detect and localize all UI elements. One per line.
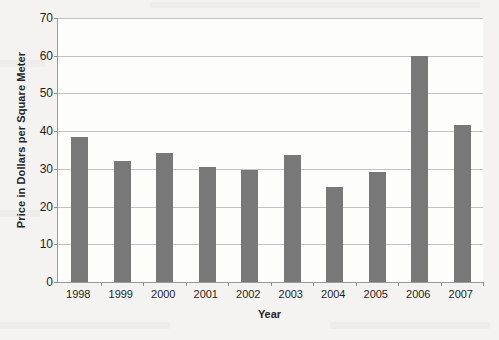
x-tickmark (186, 282, 187, 286)
y-tickmark (54, 18, 58, 19)
x-tickmark (143, 282, 144, 286)
gridline (58, 18, 483, 19)
bar-1999 (114, 161, 131, 282)
bar-chart-figure: Price in Dollars per Square Meter 70 60 … (0, 0, 499, 340)
scan-artifact (330, 322, 490, 329)
y-tickmark (54, 93, 58, 94)
x-tickmark (398, 282, 399, 286)
plot-area (57, 18, 483, 283)
y-tick-label: 0 (20, 275, 53, 289)
x-tick-label: 2004 (321, 288, 345, 300)
x-tickmark (101, 282, 102, 286)
bar-1998 (71, 137, 88, 282)
x-tick-label: 2007 (449, 288, 473, 300)
y-tick-label: 50 (20, 86, 53, 100)
y-tickmark (54, 282, 58, 283)
y-tickmark (54, 207, 58, 208)
y-tick-label: 10 (20, 237, 53, 251)
x-tickmark (271, 282, 272, 286)
x-tickmark (228, 282, 229, 286)
bar-2002 (241, 170, 258, 282)
x-tick-label: 2002 (236, 288, 260, 300)
bar-2007 (454, 125, 471, 282)
scan-artifact (150, 2, 480, 8)
y-tick-label: 60 (20, 49, 53, 63)
x-axis-title: Year (57, 308, 482, 320)
bar-2005 (369, 172, 386, 282)
x-tick-label: 2001 (194, 288, 218, 300)
y-tick-label: 40 (20, 124, 53, 138)
x-tick-label: 2000 (151, 288, 175, 300)
x-axis-tick-labels: 1998 1999 2000 2001 2002 2003 2004 2005 … (57, 288, 482, 304)
x-tickmark (483, 282, 484, 286)
bar-2003 (284, 155, 301, 282)
bar-2006 (411, 56, 428, 282)
x-tickmark (313, 282, 314, 286)
x-tick-label: 1999 (109, 288, 133, 300)
bar-2000 (156, 153, 173, 282)
x-tick-label: 2003 (279, 288, 303, 300)
y-tick-label: 20 (20, 200, 53, 214)
y-tickmark (54, 169, 58, 170)
y-tickmark (54, 131, 58, 132)
y-tickmark (54, 56, 58, 57)
x-tick-label: 2005 (364, 288, 388, 300)
x-tick-label: 1998 (66, 288, 90, 300)
bar-2001 (199, 167, 216, 282)
bar-2004 (326, 187, 343, 282)
y-tick-label: 70 (20, 11, 53, 25)
y-tick-label: 30 (20, 162, 53, 176)
y-axis-tick-labels: 70 60 50 40 30 20 10 0 (20, 0, 53, 340)
x-tickmark (441, 282, 442, 286)
x-tickmark (356, 282, 357, 286)
y-tickmark (54, 244, 58, 245)
x-tick-label: 2006 (406, 288, 430, 300)
